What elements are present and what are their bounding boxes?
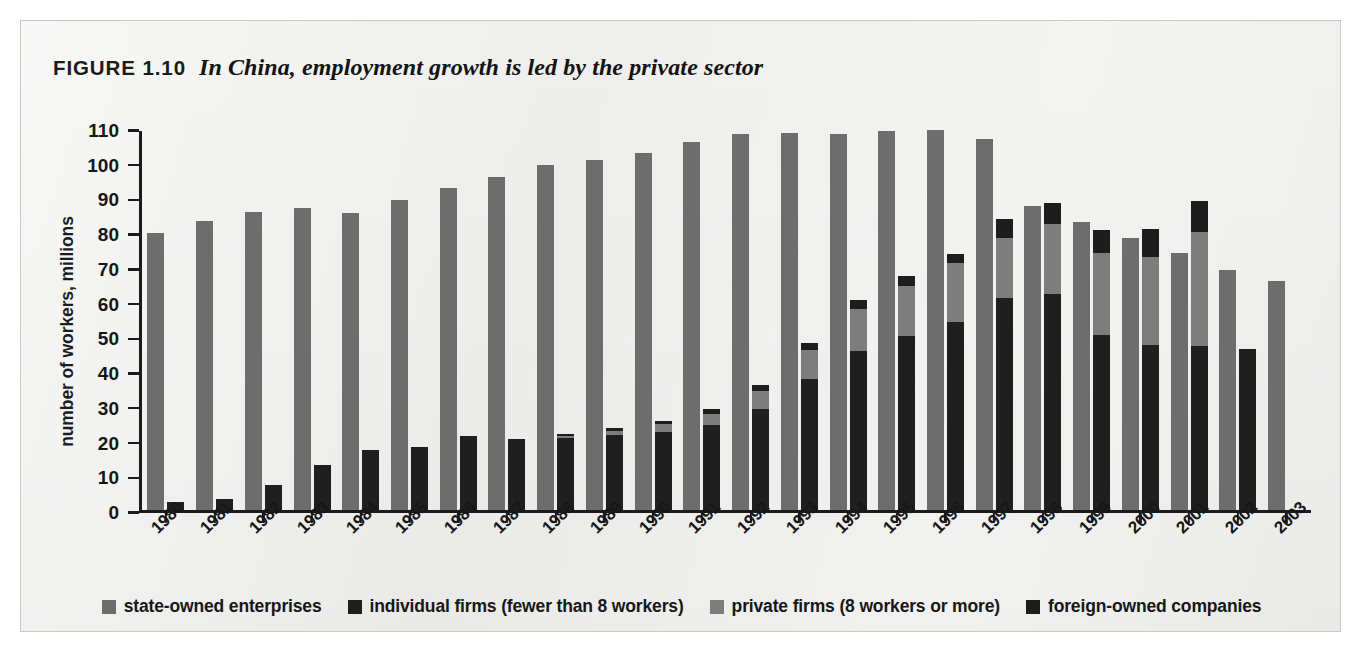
bar-private-stack-1990[interactable] — [655, 421, 672, 511]
bar-private-stack-1993[interactable] — [801, 343, 818, 511]
bar-state-owned-1998[interactable] — [1024, 206, 1041, 511]
year-group-1992[interactable] — [726, 131, 775, 510]
year-group-1985[interactable] — [385, 131, 434, 510]
year-group-1986[interactable] — [434, 131, 483, 510]
year-group-2000[interactable] — [1116, 131, 1165, 510]
segment-private-1998 — [1044, 224, 1061, 294]
figure-container: FIGURE 1.10 In China, employment growth … — [0, 0, 1361, 664]
bar-private-stack-1989[interactable] — [606, 428, 623, 511]
segment-individual-1993 — [801, 379, 818, 510]
year-group-1983[interactable] — [288, 131, 337, 510]
y-tick-mark — [128, 511, 139, 513]
year-group-1990[interactable] — [629, 131, 678, 510]
year-group-1987[interactable] — [483, 131, 532, 510]
bar-private-stack-1995[interactable] — [898, 276, 915, 511]
x-label-cell: 1987 — [483, 518, 532, 598]
year-group-1999[interactable] — [1067, 131, 1116, 510]
y-tick-110: 110 — [88, 120, 139, 142]
segment-individual-1992 — [752, 409, 769, 510]
bar-private-stack-1998[interactable] — [1044, 203, 1061, 510]
bar-private-stack-1994[interactable] — [850, 300, 867, 511]
y-tick-label: 30 — [98, 398, 119, 419]
bar-private-stack-2001[interactable] — [1191, 201, 1208, 510]
y-tick-50: 50 — [98, 328, 139, 350]
bar-state-owned-1991[interactable] — [683, 142, 700, 510]
y-tick-0: 0 — [108, 502, 139, 524]
segment-foreign-2001 — [1191, 201, 1208, 232]
bar-state-owned-1989[interactable] — [586, 160, 603, 510]
year-group-1982[interactable] — [239, 131, 288, 510]
bar-state-owned-1982[interactable] — [245, 212, 262, 510]
y-tick-20: 20 — [98, 433, 139, 455]
segment-private-1993 — [801, 350, 818, 379]
bar-state-owned-2000[interactable] — [1122, 238, 1139, 510]
bar-state-owned-1980[interactable] — [147, 233, 164, 511]
bar-state-owned-2002[interactable] — [1219, 270, 1236, 511]
segment-individual-1991 — [703, 425, 720, 510]
segment-private-2001 — [1191, 232, 1208, 346]
bar-private-stack-1999[interactable] — [1093, 230, 1110, 511]
bar-state-owned-1999[interactable] — [1073, 222, 1090, 510]
segment-private-1990 — [655, 424, 672, 432]
legend-item-private[interactable]: private firms (8 workers or more) — [710, 596, 1000, 617]
bar-state-owned-1992[interactable] — [732, 134, 749, 511]
y-tick-10: 10 — [98, 467, 139, 489]
y-tick-label: 50 — [98, 328, 119, 349]
bar-private-stack-1992[interactable] — [752, 385, 769, 510]
segment-individual-1995 — [898, 336, 915, 510]
year-group-1994[interactable] — [824, 131, 873, 510]
year-group-2001[interactable] — [1165, 131, 1214, 510]
bar-private-stack-1997[interactable] — [996, 219, 1013, 510]
year-group-1991[interactable] — [678, 131, 727, 510]
y-tick-mark — [128, 407, 139, 409]
year-group-1993[interactable] — [775, 131, 824, 510]
bar-private-stack-1991[interactable] — [703, 409, 720, 510]
year-group-1996[interactable] — [921, 131, 970, 510]
year-group-1997[interactable] — [970, 131, 1019, 510]
segment-foreign-1999 — [1093, 230, 1110, 253]
year-group-1981[interactable] — [190, 131, 239, 510]
y-tick-mark — [128, 164, 139, 166]
segment-individual-1996 — [947, 322, 964, 511]
bar-private-stack-2000[interactable] — [1142, 229, 1159, 511]
x-label-cell: 1980 — [142, 518, 191, 598]
segment-individual-1998 — [1044, 294, 1061, 510]
segment-foreign-1993 — [801, 343, 818, 350]
year-group-1980[interactable] — [142, 131, 191, 510]
year-group-1995[interactable] — [872, 131, 921, 510]
y-tick-mark — [128, 477, 139, 479]
bar-state-owned-1993[interactable] — [781, 133, 798, 511]
segment-individual-2001 — [1191, 346, 1208, 510]
bar-state-owned-2001[interactable] — [1171, 253, 1188, 511]
bar-state-owned-1996[interactable] — [927, 130, 944, 510]
bar-state-owned-1990[interactable] — [635, 153, 652, 510]
bar-private-stack-2002[interactable] — [1239, 349, 1256, 510]
year-group-2002[interactable] — [1213, 131, 1262, 510]
bar-state-owned-1985[interactable] — [391, 200, 408, 510]
y-tick-mark — [128, 268, 139, 270]
segment-foreign-1995 — [898, 276, 915, 286]
year-group-1984[interactable] — [336, 131, 385, 510]
y-tick-mark — [128, 233, 139, 235]
bar-state-owned-1987[interactable] — [488, 177, 505, 510]
bar-state-owned-2003[interactable] — [1268, 281, 1285, 511]
y-tick-80: 80 — [98, 224, 139, 246]
bar-state-owned-1997[interactable] — [976, 139, 993, 510]
bar-state-owned-1981[interactable] — [196, 221, 213, 510]
x-label-cell: 1982 — [239, 518, 288, 598]
bar-state-owned-1988[interactable] — [537, 165, 554, 510]
bar-series-group — [142, 131, 1311, 510]
bar-state-owned-1983[interactable] — [294, 208, 311, 511]
bar-state-owned-1994[interactable] — [830, 134, 847, 511]
bar-state-owned-1986[interactable] — [440, 188, 457, 510]
year-group-2003[interactable] — [1262, 131, 1311, 510]
legend-item-state_owned[interactable]: state-owned enterprises — [102, 596, 322, 617]
year-group-1989[interactable] — [580, 131, 629, 510]
year-group-1988[interactable] — [531, 131, 580, 510]
year-group-1998[interactable] — [1019, 131, 1068, 510]
bar-state-owned-1984[interactable] — [342, 213, 359, 511]
bar-state-owned-1995[interactable] — [878, 131, 895, 510]
legend-item-individual[interactable]: individual firms (fewer than 8 workers) — [348, 596, 684, 617]
legend-item-foreign[interactable]: foreign-owned companies — [1026, 596, 1261, 617]
bar-private-stack-1996[interactable] — [947, 254, 964, 510]
